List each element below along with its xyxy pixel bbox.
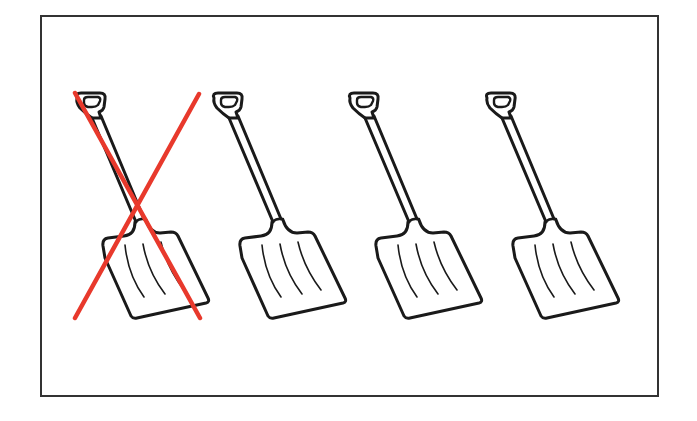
- shovel-2: [214, 93, 346, 318]
- shovel-3: [350, 93, 482, 318]
- shovel-4: [487, 93, 619, 318]
- shovel-scene: [0, 0, 697, 421]
- cross-out-mark: [75, 93, 200, 318]
